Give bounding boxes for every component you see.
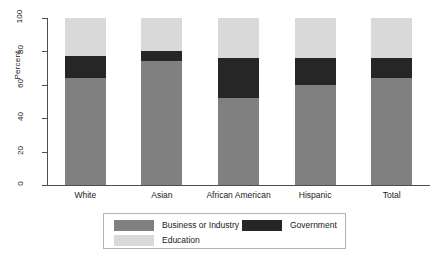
bar-segment <box>141 61 182 185</box>
y-axis-tick-label: 0 <box>0 179 40 188</box>
bar-segment <box>65 56 106 78</box>
bar-group <box>371 18 412 185</box>
y-axis-tick-label: 60 <box>0 79 40 88</box>
bar-segment <box>218 58 259 98</box>
bar-segment <box>218 18 259 58</box>
bar-group <box>141 18 182 185</box>
y-axis-tick-label: 40 <box>0 112 40 121</box>
legend-entry-government: Government <box>242 220 337 231</box>
bar-group <box>65 18 106 185</box>
legend-row-first: Business or Industry Government <box>104 218 345 232</box>
x-axis-tick-label: Total <box>332 190 438 200</box>
bar-segment <box>371 78 412 185</box>
bar-segment <box>65 78 106 185</box>
legend-label-government: Government <box>290 220 337 230</box>
bars-layer <box>47 18 430 185</box>
bar-segment <box>218 98 259 185</box>
chart-legend: Business or Industry Government Educatio… <box>103 213 346 249</box>
y-axis-tick-label: 100 <box>0 12 40 21</box>
y-axis-tick-label: 80 <box>0 45 40 54</box>
x-axis-line <box>47 185 430 186</box>
bar-segment <box>295 85 336 185</box>
legend-entry-business: Business or Industry <box>114 220 239 231</box>
bar-segment <box>141 51 182 61</box>
legend-row-second: Education <box>104 233 345 247</box>
bar-segment <box>141 18 182 51</box>
y-axis-title: Percent <box>13 66 22 80</box>
legend-swatch-icon-government <box>242 220 282 231</box>
stacked-bar-chart: Percent 020406080100 WhiteAsianAfrican A… <box>0 0 438 261</box>
legend-label-education: Education <box>162 235 200 245</box>
bar-segment <box>295 58 336 85</box>
bar-segment <box>371 18 412 58</box>
legend-entry-education: Education <box>114 235 200 246</box>
plot-area: Percent 020406080100 WhiteAsianAfrican A… <box>0 0 438 200</box>
y-axis-tick <box>42 185 47 186</box>
bar-group <box>295 18 336 185</box>
bar-segment <box>295 18 336 58</box>
bar-group <box>218 18 259 185</box>
legend-swatch-icon-education <box>114 235 154 246</box>
bar-segment <box>371 58 412 78</box>
bar-segment <box>65 18 106 56</box>
y-axis-tick-label: 20 <box>0 146 40 155</box>
legend-swatch-icon-business <box>114 220 154 231</box>
legend-label-business: Business or Industry <box>162 220 239 230</box>
